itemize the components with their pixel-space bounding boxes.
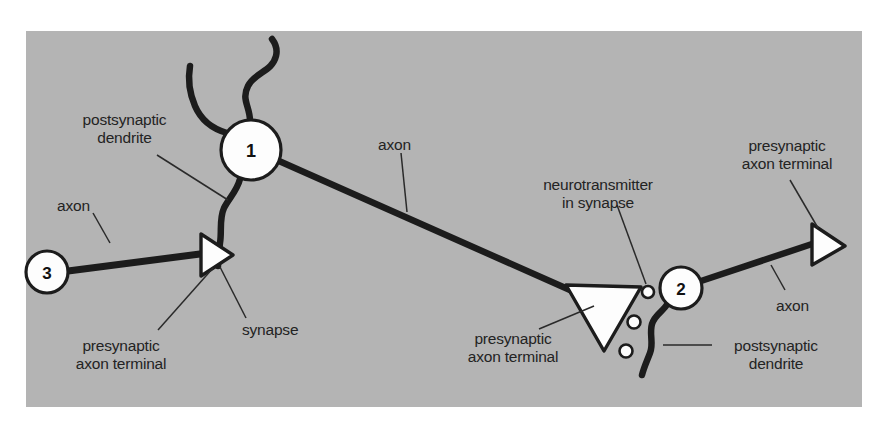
label-postsynaptic-dendrite-right: postsynaptic dendrite — [700, 337, 852, 372]
neuron-synapse-diagram: 1 3 2 — [0, 0, 884, 437]
label-presynaptic-axon-terminal-right: presynaptic axon terminal — [707, 137, 867, 172]
label-line-1: postsynaptic — [700, 337, 852, 355]
label-line-1: postsynaptic — [57, 111, 192, 129]
neurotransmitter-vesicle — [628, 316, 641, 329]
label-line-1: presynaptic — [433, 330, 593, 348]
label-line-2: axon terminal — [41, 355, 201, 373]
label-line-1: presynaptic — [707, 137, 867, 155]
neurotransmitter-vesicle — [642, 286, 654, 298]
label-line-2: dendrite — [700, 355, 852, 373]
label-presynaptic-axon-terminal-left: presynaptic axon terminal — [41, 337, 201, 372]
label-line-1: neurotransmitter — [516, 176, 680, 194]
neuron2-number: 2 — [676, 280, 685, 299]
label-axon-right: axon — [776, 297, 809, 315]
label-line-2: axon terminal — [433, 348, 593, 366]
label-synapse: synapse — [242, 321, 298, 339]
label-neurotransmitter-in-synapse: neurotransmitter in synapse — [516, 176, 680, 211]
label-line-2: dendrite — [57, 129, 192, 147]
label-line-1: presynaptic — [41, 337, 201, 355]
label-axon-center: axon — [378, 136, 411, 154]
label-line-2: in synapse — [516, 194, 680, 212]
neuron3-number: 3 — [42, 264, 51, 283]
label-presynaptic-axon-terminal-center: presynaptic axon terminal — [433, 330, 593, 365]
label-line-2: axon terminal — [707, 155, 867, 173]
neurotransmitter-vesicle — [620, 345, 633, 358]
label-axon-left: axon — [57, 197, 90, 215]
neuron1-number: 1 — [246, 141, 256, 161]
label-postsynaptic-dendrite-left: postsynaptic dendrite — [57, 111, 192, 146]
